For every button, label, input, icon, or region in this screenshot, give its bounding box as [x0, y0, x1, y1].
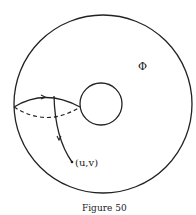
- outer-circle: [14, 15, 192, 193]
- solid-arc: [14, 98, 80, 108]
- figure-caption: Figure 50: [82, 203, 127, 213]
- path-curve: [54, 96, 72, 162]
- region-label: Φ: [138, 60, 147, 73]
- figure-diagram: (u,v) Φ Figure 50: [0, 0, 196, 215]
- point-label: (u,v): [75, 157, 98, 168]
- dashed-arc: [14, 107, 80, 118]
- point-uv: [71, 161, 74, 164]
- inner-circle: [80, 83, 122, 125]
